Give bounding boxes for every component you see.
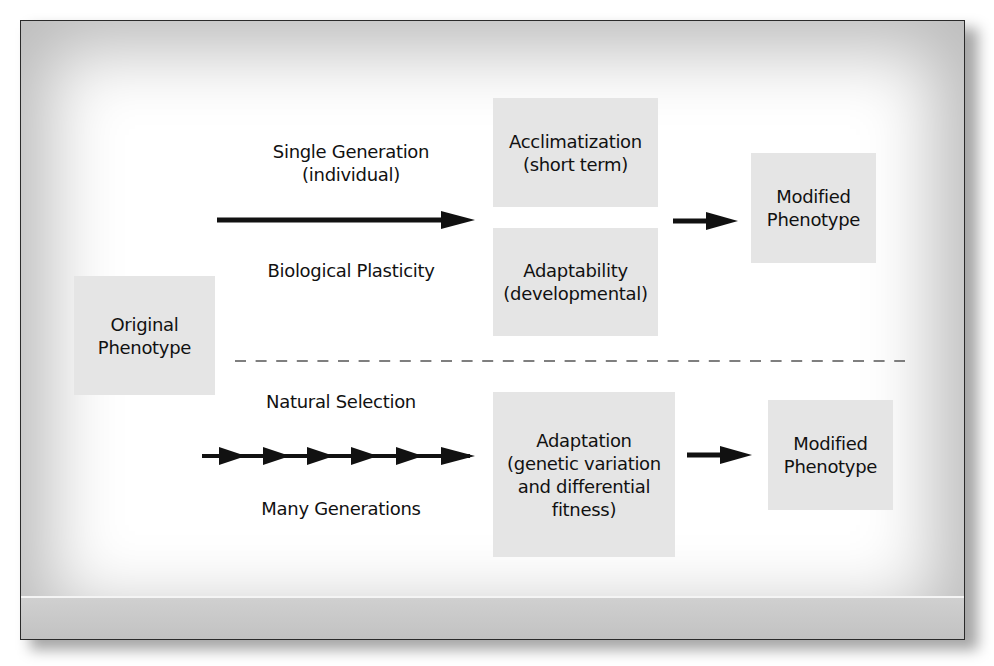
single-generation-label: Single Generation (individual) bbox=[226, 140, 476, 186]
adaptability-line-2: (developmental) bbox=[503, 282, 647, 305]
adaptation-box: Adaptation (genetic variation and differ… bbox=[493, 392, 675, 557]
single-generation-line-2: (individual) bbox=[226, 163, 476, 186]
adaptation-line-3: and differential bbox=[507, 475, 661, 498]
adaptation-line-4: fitness) bbox=[507, 498, 661, 521]
modified-phenotype-bottom-box: Modified Phenotype bbox=[768, 400, 893, 510]
modified-phenotype-bottom-line-2: Phenotype bbox=[784, 455, 877, 478]
modified-phenotype-top-line-2: Phenotype bbox=[767, 208, 860, 231]
original-phenotype-line-2: Phenotype bbox=[98, 336, 191, 359]
frame-bottom-band bbox=[21, 597, 964, 639]
adaptation-line-1: Adaptation bbox=[507, 429, 661, 452]
many-generations-label: Many Generations bbox=[231, 497, 451, 520]
acclimatization-line-2: (short term) bbox=[509, 153, 642, 176]
adaptability-box: Adaptability (developmental) bbox=[493, 228, 658, 336]
biological-plasticity-label: Biological Plasticity bbox=[226, 259, 476, 282]
acclimatization-line-1: Acclimatization bbox=[509, 130, 642, 153]
original-phenotype-line-1: Original bbox=[98, 313, 191, 336]
natural-selection-label: Natural Selection bbox=[231, 390, 451, 413]
single-generation-line-1: Single Generation bbox=[226, 140, 476, 163]
modified-phenotype-bottom-line-1: Modified bbox=[784, 432, 877, 455]
original-phenotype-box: Original Phenotype bbox=[74, 276, 215, 395]
modified-phenotype-top-box: Modified Phenotype bbox=[751, 153, 876, 263]
adaptability-line-1: Adaptability bbox=[503, 259, 647, 282]
acclimatization-box: Acclimatization (short term) bbox=[493, 98, 658, 207]
adaptation-line-2: (genetic variation bbox=[507, 452, 661, 475]
modified-phenotype-top-line-1: Modified bbox=[767, 185, 860, 208]
frame-bottom-highlight bbox=[21, 596, 964, 598]
